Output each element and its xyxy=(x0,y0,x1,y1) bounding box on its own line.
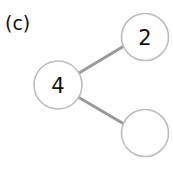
node-child-bottom xyxy=(122,110,169,157)
edge-root-to-child-top xyxy=(79,46,124,73)
node-child-top: 2 xyxy=(122,14,169,61)
node-root: 4 xyxy=(34,61,82,109)
panel-label: (c) xyxy=(5,12,30,34)
edge-root-to-child-bottom xyxy=(78,97,124,124)
node-child-bottom-circle xyxy=(122,110,169,157)
tree-diagram: (c) 4 2 xyxy=(0,0,173,169)
node-child-top-label: 2 xyxy=(138,26,151,50)
node-root-label: 4 xyxy=(51,74,64,98)
